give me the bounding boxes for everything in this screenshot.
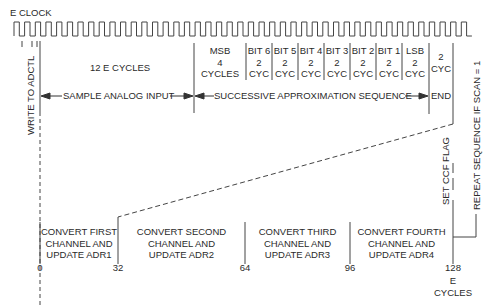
tick-label: 96 (340, 262, 360, 274)
bit-cell: BIT 52CYC (272, 45, 298, 80)
tick-label: 32 (108, 262, 128, 274)
repeat-sequence-label: REPEAT SEQUENCE IF SCAN = 1 (471, 61, 482, 210)
msb-cell: MSB 4 CYCLES (198, 45, 242, 80)
channel-block: CONVERT SECONDCHANNEL ANDUPDATE ADR2 (118, 226, 245, 261)
set-ccf-label: SET CCF FLAG (440, 137, 451, 205)
arrow-left-icon (41, 93, 50, 99)
bit-cell: BIT 62CYC (246, 45, 272, 80)
channel-block: CONVERT THIRDCHANNEL ANDUPDATE ADR3 (245, 226, 350, 261)
sample-cycles-label: 12 E CYCLES (60, 62, 180, 74)
e-clock-waveform (14, 22, 472, 36)
tick-label: 64 (235, 262, 255, 274)
end-cycles-cell: 2CYC (429, 51, 453, 74)
bit-cell: BIT 32CYC (324, 45, 350, 80)
bit-cell: BIT 22CYC (350, 45, 376, 80)
tick-label: 0 (30, 262, 50, 274)
channel-block: CONVERT FIRSTCHANNEL ANDUPDATE ADR1 (40, 226, 118, 261)
arrow-left-icon (195, 93, 204, 99)
lsb-cell: LSB2CYC (402, 45, 428, 80)
arrow-right-icon (419, 93, 428, 99)
write-adctl-label: WRITE TO ADCTL (25, 56, 36, 135)
sample-phase-label: SAMPLE ANALOG INPUT (63, 90, 170, 102)
bit-cell: BIT 12CYC (376, 45, 402, 80)
tick-label: 128 (441, 262, 465, 274)
bit-cell: BIT 42CYC (298, 45, 324, 80)
units-label: ECYCLES (433, 275, 473, 298)
clock-title: E CLOCK (10, 7, 52, 19)
sar-phase-label: SUCCESSIVE APPROXIMATION SEQUENCE (214, 90, 405, 102)
channel-block: CONVERT FOURTHCHANNEL ANDUPDATE ADR4 (350, 226, 453, 261)
end-phase-label: END (429, 90, 453, 102)
arrow-right-icon (184, 93, 193, 99)
expand-dashed-line (118, 124, 453, 217)
